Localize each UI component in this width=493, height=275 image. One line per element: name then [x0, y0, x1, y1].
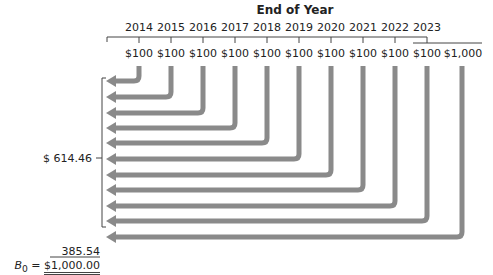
discount-arrows [114, 66, 462, 237]
cash-flow-diagram [0, 0, 493, 275]
bond-value: B0 = $1,000.00 [8, 259, 100, 274]
equals-sign: = [28, 259, 44, 272]
coupons-present-value: $ 614.46 [30, 152, 92, 165]
arrowheads [106, 75, 116, 243]
bond-value-total: $1,000.00 [44, 259, 100, 275]
bond-value-symbol: B [14, 259, 22, 272]
principal-present-value: 385.54 [50, 245, 100, 258]
